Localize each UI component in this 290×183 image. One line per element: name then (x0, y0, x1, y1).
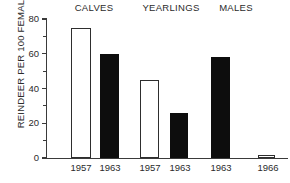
bar-yearlings-1957 (140, 80, 159, 158)
y-tick-major (42, 18, 47, 19)
bar-calves-1963 (100, 54, 119, 158)
bar-males-1963 (211, 57, 230, 158)
y-tick-label: 20 (9, 118, 39, 128)
y-tick-label: 60 (9, 49, 39, 59)
bar-yearlings-1963 (170, 113, 188, 158)
x-tick-label-males-1963: 1963 (197, 162, 245, 173)
y-tick-label: 0 (9, 153, 39, 163)
group-label-calves: CALVES (63, 2, 125, 13)
plot-area (47, 19, 288, 158)
group-label-males: MALES (207, 2, 265, 13)
y-tick-major (42, 88, 47, 89)
y-tick-label: 40 (9, 84, 39, 94)
y-tick-major (42, 53, 47, 54)
y-tick-minor (43, 140, 46, 141)
y-tick-label: 80 (9, 14, 39, 24)
y-tick-minor (43, 105, 46, 106)
group-label-yearlings: YEARLINGS (133, 2, 209, 13)
y-tick-minor (43, 71, 46, 72)
y-tick-major (42, 157, 47, 158)
reindeer-bar-chart: REINDEER PER 100 FEMALES 020406080 CALVE… (0, 0, 290, 183)
y-tick-minor (43, 36, 46, 37)
bar-males-1966 (258, 155, 275, 158)
y-tick-major (42, 123, 47, 124)
bar-calves-1957 (71, 28, 91, 158)
x-tick-label-males-1966: 1966 (244, 162, 290, 173)
